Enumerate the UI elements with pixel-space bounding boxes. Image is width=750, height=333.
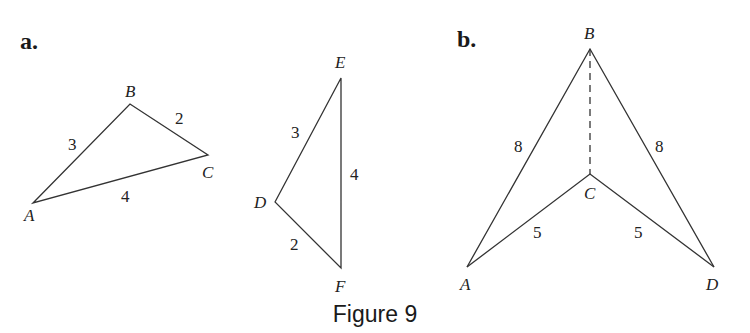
triangle-def: E D F 3 4 2 — [253, 53, 359, 296]
side-ac-length-b: 5 — [533, 223, 542, 242]
triangle-def-edges — [275, 78, 341, 268]
figure-caption: Figure 9 — [333, 301, 417, 327]
side-de-length: 3 — [291, 123, 300, 142]
side-bd-length-b: 8 — [655, 137, 664, 156]
vertex-c-label: C — [202, 163, 214, 182]
side-cd-length-b: 5 — [634, 223, 643, 242]
side-df-length: 2 — [290, 235, 299, 254]
figure-9: a. B C A 3 2 4 E D F 3 4 2 b. B C A D 8 … — [0, 0, 750, 333]
triangle-abc: B C A 3 2 4 — [23, 82, 214, 225]
side-ef-length: 4 — [350, 165, 359, 184]
vertex-e-label: E — [334, 53, 346, 72]
vertex-a-label: A — [23, 206, 35, 225]
vertex-d-label-b: D — [705, 275, 719, 294]
vertex-d-label: D — [253, 193, 267, 212]
vertex-f-label: F — [334, 277, 346, 296]
vertex-b-label-b: B — [584, 24, 595, 43]
side-ac-length: 4 — [121, 187, 130, 206]
part-b-label: b. — [457, 26, 476, 52]
side-ab-length: 3 — [68, 135, 77, 154]
side-bc-length: 2 — [175, 109, 184, 128]
vertex-a-label-b: A — [459, 275, 471, 294]
part-a-label: a. — [20, 28, 38, 54]
vertex-c-label-b: C — [584, 184, 596, 203]
vertex-b-label: B — [125, 82, 136, 101]
kite-abcd: B C A D 8 8 5 5 — [459, 24, 719, 294]
side-ab-length-b: 8 — [514, 137, 523, 156]
